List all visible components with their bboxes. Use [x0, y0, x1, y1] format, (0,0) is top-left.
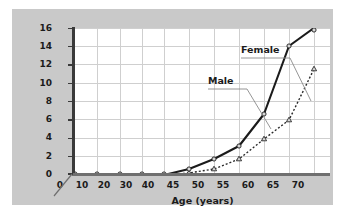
x-tick-label: 45: [164, 181, 182, 190]
x-axis-line: [72, 173, 330, 176]
y-tick-label: 0: [28, 170, 52, 179]
y-tick-mark: [68, 101, 73, 103]
y-tick-label: 12: [28, 60, 52, 69]
x-tick-label: 20: [95, 181, 113, 190]
x-tick-label: 55: [214, 181, 232, 190]
y-tick-label: 6: [28, 115, 52, 124]
y-tick-label: 10: [28, 79, 52, 88]
y-tick-label: 16: [28, 24, 52, 33]
x-axis-title: Age (years): [75, 195, 330, 206]
chart-plot-svg: [75, 28, 330, 175]
x-tick-label: 40: [139, 181, 157, 190]
x-tick-label: 65: [264, 181, 282, 190]
gridlines-horizontal: [75, 29, 330, 157]
plot-area: [75, 28, 330, 175]
chart-panel: Incidence rate 16 14 12 10 8 6 4 2 0 0 1…: [12, 9, 333, 205]
y-tick-mark: [68, 64, 73, 66]
x-tick-label: 70: [289, 181, 307, 190]
y-tick-label: 14: [28, 42, 52, 51]
x-tick-label: 30: [117, 181, 135, 190]
annotation-male: Male: [208, 76, 234, 86]
y-tick-label: 8: [28, 97, 52, 106]
y-tick-label: 4: [28, 133, 52, 142]
x-tick-label: 60: [239, 181, 257, 190]
series-male: [75, 66, 317, 175]
y-tick-mark: [68, 156, 73, 158]
y-tick-mark: [68, 138, 73, 140]
y-tick-label: 2: [28, 152, 52, 161]
y-tick-mark: [68, 46, 73, 48]
annotation-female: Female: [241, 45, 280, 55]
y-tick-mark: [68, 119, 73, 121]
chart-figure: Incidence rate 16 14 12 10 8 6 4 2 0 0 1…: [0, 0, 345, 214]
y-tick-mark: [68, 83, 73, 85]
x-tick-label: 50: [189, 181, 207, 190]
y-tick-mark: [68, 28, 73, 30]
axis-break-slash-icon: [52, 172, 76, 198]
